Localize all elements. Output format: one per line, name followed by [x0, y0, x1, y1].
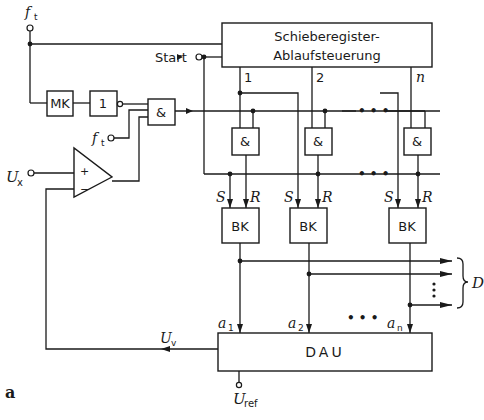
digital-output-label: D [471, 274, 484, 292]
ux-subscript: x [17, 177, 23, 188]
dac-label: DAU [305, 344, 344, 360]
ux-input: U x [6, 168, 74, 188]
ellipsis-gate-bus: • • • [358, 104, 389, 118]
start-terminal-icon [196, 54, 202, 60]
arrow-icon [315, 199, 321, 208]
arrow-icon [395, 199, 401, 208]
monoflop-block: MK [47, 91, 73, 116]
arrow-icon [440, 258, 452, 264]
arrow-icon [161, 346, 170, 352]
reset-label: R [249, 189, 261, 205]
junction-dot-icon [416, 172, 421, 177]
output-symbol: a [288, 315, 296, 331]
tap-label: n [416, 69, 425, 85]
set-label: S [284, 189, 294, 205]
reset-label: R [421, 189, 433, 205]
clock-terminal-icon [27, 25, 33, 31]
shift-register-sequencer: Schieberegister- Ablaufsteuerung [222, 23, 432, 67]
sequencer-label-line2: Ablaufsteuerung [273, 48, 381, 63]
ellipsis-reset-bus: • • • [358, 167, 389, 181]
flipflop-label: BK [398, 219, 416, 234]
arrow-icon [186, 108, 193, 114]
feedback-voltage-label: U v [160, 330, 177, 348]
arrow-icon [306, 324, 312, 333]
arrow-icon [243, 199, 249, 208]
output-subscript: 2 [298, 323, 304, 333]
output-subscript: n [397, 323, 403, 333]
figure-label: a [5, 383, 15, 402]
uref-terminal-icon [236, 382, 241, 387]
flipflop-label: BK [299, 219, 317, 234]
arrow-icon [237, 324, 243, 333]
output-symbol: a [387, 315, 395, 331]
uv-subscript: v [171, 338, 177, 348]
comparator: + − [74, 148, 112, 197]
arrow-icon [440, 302, 452, 308]
digital-output-brace: D [457, 258, 484, 308]
gate-label: & [240, 134, 250, 149]
set-label: S [384, 189, 394, 205]
arrow-icon [440, 271, 452, 277]
channel-n: n & S R BK a n [384, 67, 452, 333]
clock-terminal-icon [108, 135, 114, 141]
junction-dot-icon [316, 172, 321, 177]
arrow-icon [227, 199, 233, 208]
flipflop-label: BK [231, 219, 249, 234]
clock-symbol: f [91, 130, 100, 146]
gate-label: & [313, 134, 323, 149]
tap-label: 1 [244, 70, 252, 85]
arrow-icon [407, 324, 413, 333]
dac-block: DAU [218, 333, 432, 371]
inversion-bubble-icon [117, 101, 122, 106]
monoflop-label: MK [50, 96, 70, 111]
comparator-plus: + [80, 165, 89, 178]
output-subscript: 1 [228, 323, 234, 333]
tap-label: 2 [316, 70, 324, 85]
gate-label: & [412, 134, 422, 149]
comparator-minus: − [80, 183, 89, 196]
clock-input-top: f t [24, 4, 222, 103]
and-gate-main: & [148, 99, 175, 125]
uref-subscript: ref [244, 398, 258, 409]
clock-symbol: f [24, 4, 33, 20]
set-label: S [216, 189, 226, 205]
ellipsis-outputs: • • • [347, 311, 378, 325]
arrow-icon [295, 199, 301, 208]
ux-terminal-icon [28, 170, 34, 176]
and-gate-label: & [156, 105, 166, 120]
uref-input: U ref [233, 371, 258, 409]
clock-subscript: t [101, 138, 105, 148]
inverter-label: 1 [99, 96, 107, 111]
sequencer-label-line1: Schieberegister- [274, 29, 380, 44]
clock-subscript: t [34, 12, 38, 22]
start-label: Start [155, 50, 187, 65]
inverter-block: 1 [90, 91, 123, 116]
reset-label: R [321, 189, 333, 205]
sar-adc-block-diagram: Schieberegister- Ablaufsteuerung f t Sta… [0, 0, 484, 420]
output-symbol: a [218, 315, 226, 331]
arrow-icon [415, 199, 421, 208]
